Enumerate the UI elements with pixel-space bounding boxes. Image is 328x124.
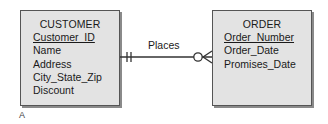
relationship-connector xyxy=(0,0,328,124)
relationship-label: Places xyxy=(148,39,180,51)
figure-caption: A xyxy=(19,110,25,120)
